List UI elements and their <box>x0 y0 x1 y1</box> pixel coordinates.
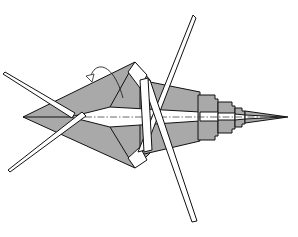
diagram-canvas: origami insect (cricket/grasshopper) fol… <box>0 0 298 237</box>
origami-diagram <box>0 0 298 237</box>
tail <box>198 95 288 140</box>
